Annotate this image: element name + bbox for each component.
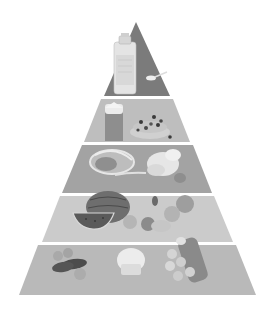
muffin-icon <box>117 248 145 275</box>
tier-4-shape <box>42 196 233 242</box>
tier-fruits-vegetables <box>42 191 233 242</box>
food-pyramid <box>0 0 263 311</box>
tier-fats-oils <box>104 22 170 96</box>
tier-grains-starches <box>19 236 256 295</box>
milk-carton-icon <box>105 102 123 141</box>
oil-bottle-icon <box>114 33 136 94</box>
tier-3-shape <box>62 145 212 193</box>
tier-protein <box>62 145 212 193</box>
tier-dairy <box>84 99 190 142</box>
egg-icon <box>174 173 186 183</box>
